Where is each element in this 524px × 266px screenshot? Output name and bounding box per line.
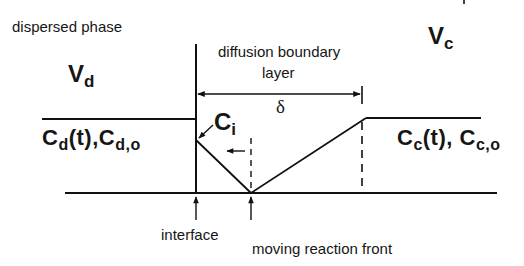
boundary-label-line2: layer (262, 64, 295, 81)
cd-label: Cd(t),Cd,o (42, 125, 141, 154)
cd-c1: C (42, 125, 58, 150)
ci-label: Ci (214, 108, 236, 140)
cd-s2: d,o (115, 136, 141, 153)
vd-label: Vd (68, 60, 94, 92)
vd-sub: d (84, 72, 94, 91)
vc-sub: c (444, 34, 453, 53)
ci-pointer-arrow (199, 125, 213, 138)
cd-s1: d (58, 136, 68, 153)
cc-s2: c,o (476, 136, 501, 153)
cc-c1: C (397, 125, 413, 150)
vc-label: Vc (428, 22, 453, 54)
boundary-label-line1: diffusion boundary (218, 43, 340, 60)
cc-c2: C (460, 125, 476, 150)
cc-s1: c (413, 136, 422, 153)
vc-main: V (428, 22, 444, 49)
ci-main: C (214, 108, 231, 135)
cc-label: Cc(t), Cc,o (397, 125, 501, 154)
cd-mid: (t), (69, 125, 99, 150)
interface-label: interface (161, 226, 219, 243)
cc-mid: (t), (423, 125, 453, 150)
cd-c2: C (99, 125, 115, 150)
dispersed-phase-label: dispersed phase (12, 18, 122, 35)
ci-sub: i (231, 120, 236, 139)
reaction-front-label: moving reaction front (252, 240, 392, 257)
delta-label: δ (276, 96, 285, 118)
vd-main: V (68, 60, 84, 87)
